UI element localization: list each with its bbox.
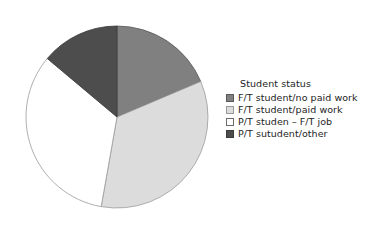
- legend-item-label: F/T student/no paid work: [238, 92, 358, 104]
- legend-color-swatch: [226, 106, 234, 114]
- legend-item[interactable]: F/T student/paid work: [226, 104, 374, 116]
- pie-chart-svg: [20, 14, 220, 224]
- legend-item[interactable]: P/T sutudent/other: [226, 128, 374, 140]
- legend-color-swatch: [226, 118, 234, 126]
- legend-item-label: P/T sutudent/other: [238, 128, 328, 140]
- legend-item[interactable]: F/T student/no paid work: [226, 92, 374, 104]
- legend-item[interactable]: P/T studen – F/T job: [226, 116, 374, 128]
- legend-item-label: F/T student/paid work: [238, 104, 343, 116]
- chart-legend: Student status F/T student/no paid workF…: [226, 78, 374, 140]
- legend-item-list: F/T student/no paid workF/T student/paid…: [226, 92, 374, 140]
- pie-slice-group: [26, 26, 208, 208]
- legend-color-swatch: [226, 130, 234, 138]
- legend-title: Student status: [240, 78, 374, 89]
- legend-color-swatch: [226, 94, 234, 102]
- legend-item-label: P/T studen – F/T job: [238, 116, 332, 128]
- pie-chart: [20, 14, 220, 224]
- pie-chart-screenshot: Student status F/T student/no paid workF…: [0, 0, 377, 225]
